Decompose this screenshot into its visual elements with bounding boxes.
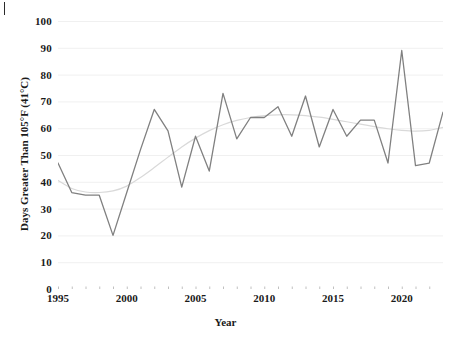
y-axis-tick-label: 50 bbox=[41, 149, 52, 161]
y-axis-tick-label: 100 bbox=[35, 15, 52, 27]
y-axis-tick-label: 90 bbox=[41, 42, 52, 54]
y-axis-tick-label: 60 bbox=[41, 122, 52, 134]
x-axis-tick-label: 2005 bbox=[185, 292, 207, 304]
x-axis-tick-label: 2000 bbox=[116, 292, 138, 304]
series-layer bbox=[58, 50, 443, 235]
plot-area bbox=[58, 21, 443, 289]
x-axis-ticks bbox=[59, 287, 444, 290]
x-axis-tick-labels: 199520002005201020152020 bbox=[0, 292, 451, 308]
y-axis-tick-label: 20 bbox=[41, 229, 52, 241]
y-axis-tick-label: 70 bbox=[41, 95, 52, 107]
y-axis-tick-label: 30 bbox=[41, 203, 52, 215]
x-axis-title: Year bbox=[0, 316, 451, 328]
data-line-path bbox=[58, 50, 443, 235]
chart-figure: 0102030405060708090100 Days Greater Than… bbox=[0, 0, 451, 344]
x-axis-tick-label: 2020 bbox=[391, 292, 413, 304]
y-axis-tick-label: 40 bbox=[41, 176, 52, 188]
x-axis-tick-label: 1995 bbox=[47, 292, 69, 304]
x-axis-tick-label: 2015 bbox=[322, 292, 344, 304]
y-axis-tick-label: 80 bbox=[41, 69, 52, 81]
y-axis-title: Days Greater Than 105°F (41°C) bbox=[18, 34, 30, 274]
x-axis-tick-label: 2010 bbox=[253, 292, 275, 304]
y-axis-tick-label: 10 bbox=[41, 256, 52, 268]
